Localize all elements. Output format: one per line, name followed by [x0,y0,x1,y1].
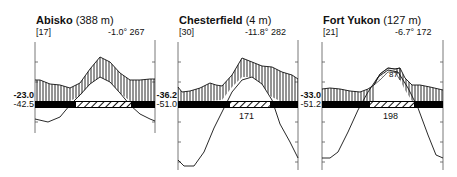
fort-yukon-diagram [322,40,443,170]
fort-yukon-annual-stats: -6.7° 172 [395,27,432,37]
abisko-title: Abisko (388 m) [36,14,114,26]
abisko-annual-stats: -1.0° 267 [108,27,145,37]
chesterfield-annual-stats: -11.8° 282 [245,27,286,37]
fort-yukon-years: [21] [323,27,338,37]
chesterfield-bar-label: 171 [239,111,254,121]
chesterfield-title: Chesterfield (4 m) [179,14,271,26]
abisko-years: [17] [36,27,51,37]
abisko-diagram [35,40,155,133]
fort-yukon-bar-label: 198 [383,111,398,121]
climate-diagrams-svg [0,0,457,177]
chesterfield-lower-label: -51.0 [156,99,177,109]
chesterfield-diagram [178,40,298,170]
fort-yukon-title: Fort Yukon (127 m) [323,14,421,26]
fort-yukon-lower-label: -51.2 [300,99,321,109]
abisko-lower-label: -42.5 [13,99,34,109]
chesterfield-years: [30] [179,27,194,37]
fort-yukon-dry-label: 87 [389,70,398,79]
